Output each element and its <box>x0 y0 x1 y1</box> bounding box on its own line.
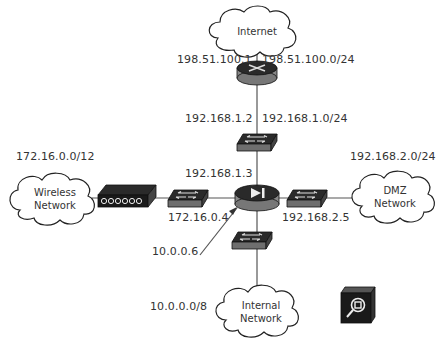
switch-upper-icon <box>237 134 277 151</box>
wireless-cloud-label: Wireless Network <box>26 186 84 212</box>
ids-sensor-icon <box>341 287 375 323</box>
wireless-cloud-label-line2: Network <box>26 199 84 212</box>
firewall-wireless-ip-label: 172.16.0.4 <box>168 211 228 224</box>
router-lan-ip-label: 192.168.1.2 <box>185 112 253 125</box>
switch-lower-icon <box>232 232 272 249</box>
firewall-internal-ip-label: 10.0.0.6 <box>152 245 198 258</box>
internal-cloud-label-line1: Internal <box>230 299 292 312</box>
internal-cloud-label: Internal Network <box>230 299 292 325</box>
lan-subnet-label: 192.168.1.0/24 <box>262 112 348 125</box>
wireless-cloud-label-line1: Wireless <box>26 186 84 199</box>
internal-cloud-label-line2: Network <box>230 312 292 325</box>
dmz-subnet-label: 192.168.2.0/24 <box>350 150 436 163</box>
dmz-cloud-label: DMZ Network <box>364 184 426 210</box>
router-wan-ip-label: 198.51.100.1 <box>177 53 252 66</box>
internal-subnet-label: 10.0.0.0/8 <box>150 300 207 313</box>
firewall-dmz-ip-label: 192.168.2.5 <box>282 211 350 224</box>
wireless-subnet-label: 172.16.0.0/12 <box>16 150 94 163</box>
internet-cloud-label: Internet <box>232 25 282 38</box>
dmz-cloud-label-line2: Network <box>364 197 426 210</box>
firewall-lan-ip-label: 192.168.1.3 <box>185 167 253 180</box>
dmz-cloud-label-line1: DMZ <box>364 184 426 197</box>
switch-right-icon <box>287 190 327 207</box>
wan-subnet-label: 198.51.100.0/24 <box>262 53 355 66</box>
wireless-access-point-icon <box>98 185 156 207</box>
firewall-icon <box>235 185 279 211</box>
switch-left-icon <box>168 190 208 207</box>
arrowhead-icon <box>229 207 237 215</box>
